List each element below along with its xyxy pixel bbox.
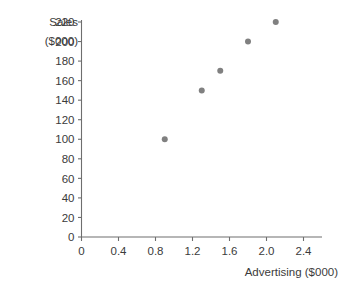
y-tick-label: 20 xyxy=(62,212,75,224)
y-tick-label: 40 xyxy=(62,192,75,204)
data-point xyxy=(245,39,251,45)
data-point xyxy=(217,68,223,74)
plot-area: 020406080100120140160180200220 00.40.81.… xyxy=(0,0,343,293)
x-tick-label: 0.8 xyxy=(148,245,164,257)
x-tick-label: 0 xyxy=(78,245,84,257)
y-tick-label: 0 xyxy=(68,231,74,243)
y-tick-label: 100 xyxy=(55,133,74,145)
y-tick-label: 60 xyxy=(62,173,75,185)
data-point xyxy=(162,136,168,142)
x-tick-label: 1.6 xyxy=(222,245,238,257)
y-tick-label: 160 xyxy=(55,75,74,87)
y-tick-label: 180 xyxy=(55,55,74,67)
data-point xyxy=(199,87,205,93)
y-tick-label: 120 xyxy=(55,114,74,126)
x-tick-label: 2.4 xyxy=(296,245,313,257)
y-axis-title-line1: Sales xyxy=(49,16,78,28)
y-tick-label: 80 xyxy=(62,153,75,165)
x-tick-label: 1.2 xyxy=(185,245,201,257)
y-tick-label: 140 xyxy=(55,94,74,106)
scatter-chart: 020406080100120140160180200220 00.40.81.… xyxy=(0,0,343,293)
x-tick-label: 0.4 xyxy=(111,245,128,257)
data-point xyxy=(273,19,279,25)
x-tick-label: 2.0 xyxy=(259,245,275,257)
data-point-series xyxy=(162,19,279,142)
x-axis-tick-marks xyxy=(82,237,304,241)
y-axis-title-line2: ($000) xyxy=(45,35,78,47)
y-axis-tick-labels: 020406080100120140160180200220 xyxy=(55,16,74,243)
x-axis-title: Advertising ($000) xyxy=(245,266,338,278)
x-axis-tick-labels: 00.40.81.21.62.02.4 xyxy=(78,245,312,257)
